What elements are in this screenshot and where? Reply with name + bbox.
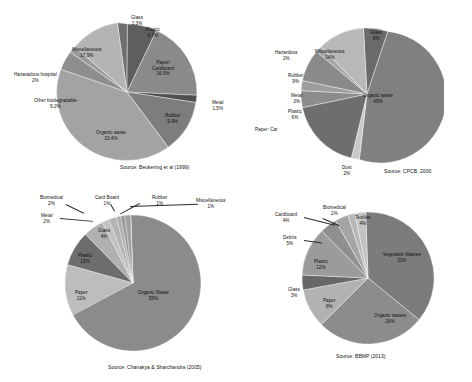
label-metal: Metal 1.5% bbox=[212, 100, 223, 111]
label-plastic-text: Plastic bbox=[78, 253, 92, 258]
label-plastic-text: Plastic bbox=[314, 259, 328, 264]
label-paper-pct: 16.5% bbox=[152, 71, 174, 77]
label-glass: Glass 4% bbox=[98, 228, 110, 239]
label-glass-text: Glass bbox=[131, 15, 143, 20]
label-hazardous: Hazaradous hospital 2% bbox=[14, 72, 57, 83]
label-paper-text: Paper: Car bbox=[255, 127, 278, 132]
label-vegetable-text: Vegetable Wastes bbox=[383, 252, 421, 257]
label-organic-pct: 45% bbox=[363, 99, 393, 105]
label-rubber-pct: 9% bbox=[288, 79, 303, 85]
chart-chanakya: Biomedical 2% Card Board 1% Rubber 1% Mi… bbox=[0, 190, 250, 382]
label-plastic-pct: 6.7% bbox=[146, 33, 160, 39]
label-miscellaneous: Miscellaneous 1% bbox=[196, 198, 226, 209]
label-plastic: Plastic 13% bbox=[78, 253, 92, 264]
label-paper-text: Paper bbox=[323, 298, 336, 303]
label-biomedical: Biomedical 2% bbox=[40, 195, 63, 206]
source-beukering: Source: Beukering et al (1999) bbox=[120, 164, 189, 170]
label-dust-text: Dust bbox=[342, 165, 352, 170]
label-glass: Glass 3% bbox=[288, 287, 300, 298]
label-debris-pct: 5% bbox=[283, 241, 297, 247]
label-debris: Debris 5% bbox=[283, 235, 297, 246]
pie-bbmp-svg bbox=[295, 208, 445, 353]
label-vegetable: Vegetable Wastes 33% bbox=[383, 252, 421, 263]
label-biomedical-pct: 2% bbox=[40, 201, 63, 207]
label-glass: Glass 6% bbox=[370, 30, 382, 41]
label-miscellaneous-pct: 17.9% bbox=[72, 53, 102, 59]
label-otherbio: Other biodegradable 9.2% bbox=[34, 98, 77, 109]
label-plastic-text: Plastic bbox=[146, 27, 160, 32]
chart-cpcb: Glass 6% Miscellaneous 14% Hazardous 2% … bbox=[250, 0, 472, 190]
leader-biomedical bbox=[66, 204, 84, 213]
label-cardboard-pct: 4% bbox=[275, 218, 297, 224]
label-glass: Glass 2.3% bbox=[131, 15, 143, 26]
label-organic-pct: 33.4% bbox=[96, 136, 126, 142]
source-chanakya: Source: Chanakya & Sharchandra (2005) bbox=[108, 364, 202, 370]
label-plastic: Plastic 6.7% bbox=[146, 27, 160, 38]
pie-chanakya bbox=[55, 215, 215, 355]
label-organic-text: Organic waste bbox=[363, 93, 393, 98]
label-dust: Dust 2% bbox=[342, 165, 352, 176]
label-metal-pct: 1.5% bbox=[212, 106, 223, 112]
label-organic: Organic Waste 59% bbox=[138, 290, 169, 301]
chart-bbmp: Cardboard 4% Biomedical 2% Textiles 4% D… bbox=[250, 190, 472, 382]
label-biomedical-text: Biomedical bbox=[323, 205, 346, 210]
source-bbmp: Source: BBMP (2013) bbox=[336, 353, 386, 359]
label-organic-text: Organic waste bbox=[96, 130, 126, 135]
label-debris-text: Debris bbox=[283, 235, 297, 240]
label-cardboard: Card Board 1% bbox=[95, 195, 119, 206]
label-plastic-pct: 6% bbox=[288, 115, 302, 121]
label-miscellaneous-text: Miscellaneous bbox=[315, 49, 345, 54]
label-textiles: Textiles 4% bbox=[355, 215, 371, 226]
label-miscellaneous-text: Miscellaneous bbox=[72, 47, 102, 52]
label-hazardous-pct: 2% bbox=[275, 56, 298, 62]
label-metal-text: Metal bbox=[291, 93, 302, 98]
label-paper: Paper 11% bbox=[75, 290, 88, 301]
label-miscellaneous: Miscellaneous 14% bbox=[315, 49, 345, 60]
label-paper-pct: 8% bbox=[323, 304, 336, 310]
label-plastic-text: Plastic bbox=[288, 109, 302, 114]
label-organic: Organic wastes 26% bbox=[374, 313, 406, 324]
label-plastic-pct: 12% bbox=[314, 265, 328, 271]
label-cardboard-pct: 1% bbox=[95, 201, 119, 207]
label-rubber: Rubber 9.9% bbox=[165, 113, 180, 124]
pie-beukering-svg bbox=[48, 14, 208, 164]
label-organic-pct: 59% bbox=[138, 296, 169, 302]
label-glass-text: Glass bbox=[288, 287, 300, 292]
label-rubber: Rubber 9% bbox=[288, 73, 303, 84]
label-cardboard-text: Cardboard bbox=[275, 212, 297, 217]
label-organic-text: Organic Waste bbox=[138, 290, 169, 295]
label-rubber-text: Rubber bbox=[152, 195, 167, 200]
label-rubber-text: Rubber bbox=[288, 73, 303, 78]
label-paper-text: Paper bbox=[75, 290, 88, 295]
label-organic-pct: 26% bbox=[374, 319, 406, 325]
label-paper-pct: 11% bbox=[75, 296, 88, 302]
label-metal-pct: 3% bbox=[291, 99, 302, 105]
label-dust-pct: 2% bbox=[342, 171, 352, 177]
source-cpcb: Source: CPCB, 2000 bbox=[384, 168, 431, 174]
label-plastic: Plastic 6% bbox=[288, 109, 302, 120]
label-cardboard: Cardboard 4% bbox=[275, 212, 297, 223]
label-metal-pct: 2% bbox=[41, 219, 52, 225]
label-hazardous: Hazardous 2% bbox=[275, 50, 298, 61]
label-rubber-text: Rubber bbox=[165, 113, 180, 118]
label-paper-text-1: Paper/ bbox=[156, 60, 170, 65]
label-textiles-text: Textiles bbox=[355, 215, 371, 220]
label-hazardous-text: Hazaradous hospital bbox=[14, 72, 57, 77]
label-rubber-pct: 9.9% bbox=[165, 119, 180, 125]
label-otherbio-text: Other biodegradable bbox=[34, 98, 77, 103]
label-otherbio-pct: 9.2% bbox=[34, 104, 77, 110]
label-cardboard-text: Card Board bbox=[95, 195, 119, 200]
label-biomedical-text: Biomedical bbox=[40, 195, 63, 200]
label-organic: Organic waste 33.4% bbox=[96, 130, 126, 141]
label-hazardous-pct: 2% bbox=[14, 78, 57, 84]
label-glass-text: Glass bbox=[370, 30, 382, 35]
label-glass-pct: 3% bbox=[288, 293, 300, 299]
label-miscellaneous: Miscellaneous 17.9% bbox=[72, 47, 102, 58]
label-metal-text: Metal bbox=[212, 100, 223, 105]
label-plastic-pct: 13% bbox=[78, 259, 92, 265]
label-miscellaneous-pct: 14% bbox=[315, 55, 345, 61]
label-metal-text: Metal bbox=[41, 213, 52, 218]
pie-bbmp bbox=[295, 208, 445, 353]
label-glass-text: Glass bbox=[98, 228, 110, 233]
figure-canvas: Glass 2.3% Plastic 6.7% Paper/ Cardboard… bbox=[0, 0, 472, 382]
